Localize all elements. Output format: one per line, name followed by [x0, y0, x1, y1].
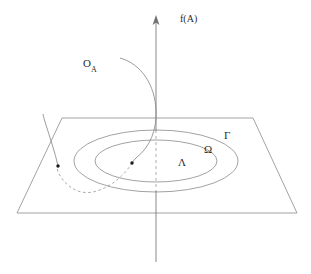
orbit-curve-tail	[43, 114, 58, 166]
orbit-point-center	[130, 161, 133, 164]
diagram-canvas	[0, 0, 311, 274]
ellipse-label-gamma: Γ	[224, 130, 230, 141]
orbit-label-main: O	[83, 57, 91, 69]
orbit-label: OA	[83, 58, 97, 72]
orbit-curve-visible	[120, 58, 156, 163]
orbit-point-left	[56, 164, 59, 167]
axis-label-fa: f(A)	[180, 14, 197, 24]
orbit-label-subscript: A	[91, 65, 97, 74]
figure-root: f(A) OA Γ Ω Λ	[0, 0, 311, 274]
ellipse-label-omega: Ω	[204, 144, 212, 155]
ellipse-label-lambda: Λ	[178, 157, 186, 168]
